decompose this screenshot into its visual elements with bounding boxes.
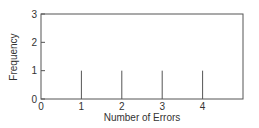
y-tick-label: 0: [31, 94, 37, 105]
x-tick-label: 1: [79, 101, 85, 112]
y-tick-label: 2: [31, 37, 37, 48]
chart: 0123 01234 Number of Errors Frequency: [0, 0, 259, 128]
bars: [81, 71, 202, 99]
x-axis-label: Number of Errors: [104, 112, 181, 123]
x-axis: 01234: [38, 101, 206, 112]
y-axis-label: Frequency: [8, 33, 19, 80]
y-axis: 0123: [31, 9, 45, 105]
x-tick-label: 0: [38, 101, 44, 112]
plot-frame: [41, 14, 243, 99]
x-tick-label: 3: [159, 101, 165, 112]
x-tick-label: 2: [119, 101, 125, 112]
y-tick-label: 3: [31, 9, 37, 20]
x-tick-label: 4: [200, 101, 206, 112]
y-tick-label: 1: [31, 65, 37, 76]
